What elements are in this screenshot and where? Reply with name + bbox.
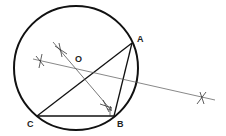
label-a: A (137, 34, 144, 44)
label-c: C (27, 119, 34, 129)
label-b: B (117, 119, 124, 129)
circumcircle-diagram: A B C O (0, 0, 226, 136)
arc-mark-upper (55, 43, 67, 57)
bisector-of-cb (53, 42, 111, 110)
bisector-of-ac (33, 59, 215, 100)
label-o: O (75, 54, 82, 64)
circumscribed-circle (14, 6, 138, 130)
